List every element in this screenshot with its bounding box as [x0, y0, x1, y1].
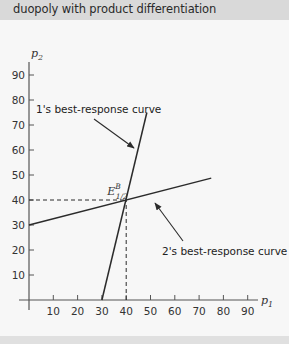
y-tick-label: 30: [12, 219, 25, 231]
x-tick-label: 30: [95, 305, 108, 317]
y-tick-label: 50: [12, 169, 25, 181]
y-tick-label: 80: [12, 94, 25, 106]
x-tick-label: 20: [71, 305, 84, 317]
x-tick-label: 90: [241, 305, 254, 317]
y-tick-label: 70: [12, 119, 25, 131]
equilibrium-label: EB1/2: [106, 182, 128, 201]
firm1-annotation-arrow: [94, 119, 134, 148]
firm2-annotation-arrow: [155, 203, 183, 241]
x-tick-label: 10: [47, 305, 60, 317]
firm1-curve-annotation: 1's best-response curve: [36, 103, 161, 115]
y-axis-label: p2: [31, 47, 43, 62]
x-tick-label: 70: [192, 305, 205, 317]
x-tick-label: 50: [144, 305, 157, 317]
y-tick-label: 90: [12, 69, 25, 81]
y-tick-label: 10: [12, 269, 25, 281]
firm2-curve-annotation: 2's best-response curve: [162, 245, 287, 257]
y-tick-label: 60: [12, 144, 25, 156]
x-tick-label: 80: [217, 305, 230, 317]
chart-canvas: p2p1102030405060708090102030405060708090…: [0, 0, 289, 344]
y-tick-label: 40: [12, 194, 25, 206]
x-tick-label: 60: [168, 305, 181, 317]
x-tick-label: 40: [120, 305, 133, 317]
y-tick-label: 20: [12, 244, 25, 256]
x-axis-label: p1: [261, 294, 273, 309]
